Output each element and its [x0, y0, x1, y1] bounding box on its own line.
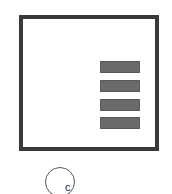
square-frame [19, 15, 159, 151]
bar-4 [100, 117, 140, 129]
figure-label: c [65, 182, 71, 193]
bar-3 [100, 99, 140, 111]
bar-1 [100, 61, 140, 73]
bar-2 [100, 80, 140, 92]
